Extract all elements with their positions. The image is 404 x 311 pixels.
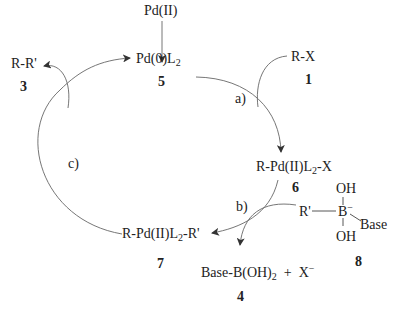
borate-base: Base: [360, 218, 387, 232]
transmet-label-pre: R-Pd(II)L: [122, 226, 178, 241]
boron-atom: B: [338, 204, 347, 219]
transmet-label-post: -R': [183, 226, 200, 241]
compound-number-4: 4: [237, 290, 244, 304]
byproduct-label-pre: Base-B(OH): [201, 265, 272, 280]
byproduct-label-sub: 2: [272, 271, 277, 282]
byproduct-label: Base-B(OH)2+X−: [201, 266, 314, 280]
borate-charge: −: [347, 202, 353, 213]
borate-boron: B−: [338, 205, 353, 219]
transmetalation-complex-label: R-Pd(II)L2-R': [122, 227, 200, 241]
halide-x: X: [299, 265, 309, 280]
borate-oh-bottom: OH: [336, 230, 356, 244]
compound-number-7: 7: [157, 257, 164, 271]
plus-sign: +: [284, 265, 292, 280]
compound-number-8: 8: [355, 255, 362, 269]
halide-charge: −: [309, 263, 315, 274]
